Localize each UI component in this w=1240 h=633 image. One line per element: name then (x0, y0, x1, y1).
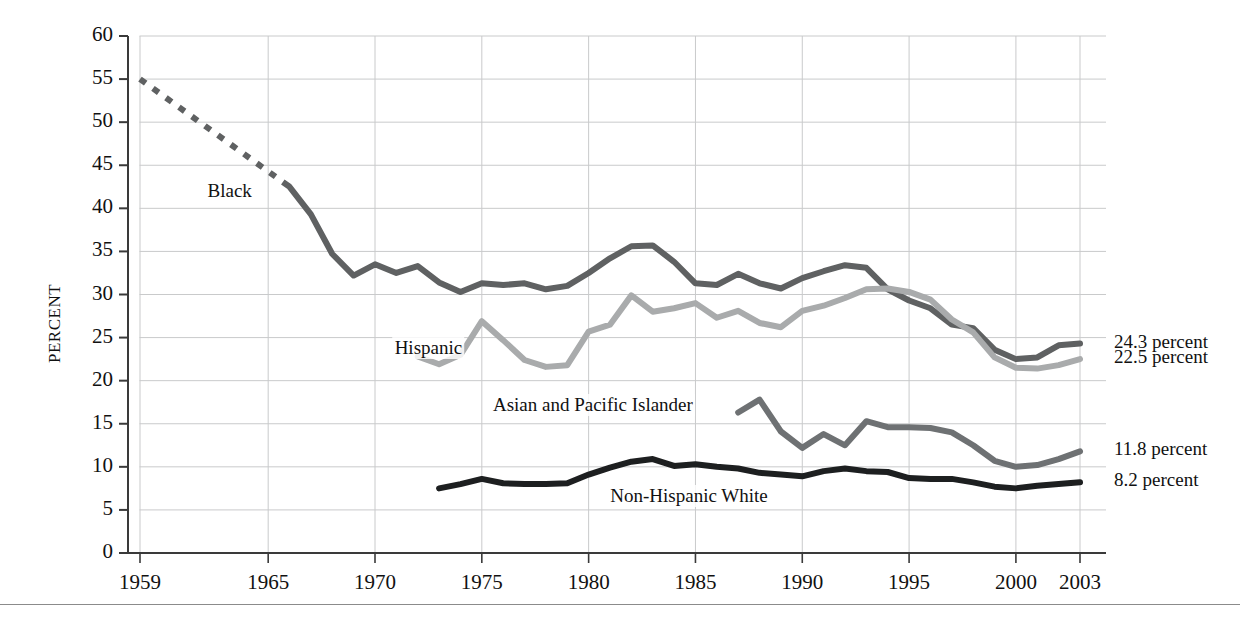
y-tick-label: 35 (67, 237, 113, 262)
x-tick-label: 1970 (354, 570, 396, 595)
y-tick-label: 0 (67, 539, 113, 564)
y-tick-label: 55 (67, 65, 113, 90)
figure-bottom-rule (0, 604, 1240, 605)
x-tick-label: 1959 (119, 570, 161, 595)
gridlines (140, 36, 1107, 553)
x-tick-label: 1975 (461, 570, 503, 595)
end-value-label-non-hispanic-white: 8.2 percent (1114, 469, 1198, 491)
x-tick-label: 1985 (674, 570, 716, 595)
series-label-hispanic: Hispanic (393, 337, 465, 359)
series-label-asian-and-pacific-islander: Asian and Pacific Islander (491, 394, 695, 416)
x-tick-label: 2003 (1059, 570, 1101, 595)
series-black (140, 79, 1080, 359)
y-tick-label: 15 (67, 410, 113, 435)
series-label-black: Black (206, 180, 254, 202)
y-tick-label: 40 (67, 194, 113, 219)
y-tick-label: 25 (67, 324, 113, 349)
x-tick-label: 1995 (888, 570, 930, 595)
x-tick-label: 1965 (247, 570, 289, 595)
y-tick-label: 60 (67, 22, 113, 47)
series-hispanic (418, 288, 1080, 368)
series-line (418, 288, 1080, 368)
x-tick-label: 1990 (781, 570, 823, 595)
x-tick-label: 2000 (995, 570, 1037, 595)
series-label-non-hispanic-white: Non-Hispanic White (608, 485, 769, 507)
y-tick-label: 10 (67, 453, 113, 478)
y-tick-label: 5 (67, 496, 113, 521)
y-tick-label: 20 (67, 367, 113, 392)
end-value-label-hispanic: 22.5 percent (1114, 346, 1208, 368)
chart-plot-area (0, 0, 1240, 633)
y-tick-label: 45 (67, 151, 113, 176)
x-tick-label: 1980 (568, 570, 610, 595)
poverty-rate-line-chart: PERCENT 05101520253035404550556019591965… (0, 0, 1240, 633)
y-tick-label: 50 (67, 108, 113, 133)
end-value-label-asian-and-pacific-islander: 11.8 percent (1114, 438, 1207, 460)
y-axis-title: PERCENT (45, 284, 65, 363)
series-line (290, 187, 1080, 359)
y-tick-label: 30 (67, 281, 113, 306)
series-line-dashed (140, 79, 290, 187)
